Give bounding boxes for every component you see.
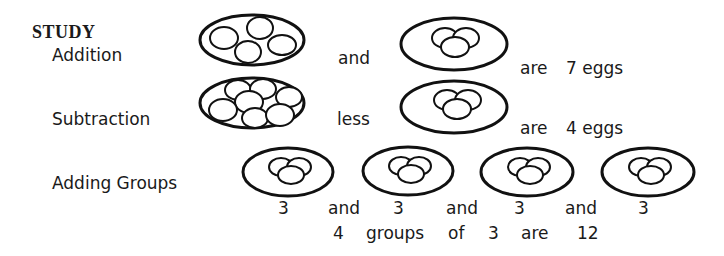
group-plate-2 xyxy=(363,147,453,195)
summary-verb: are xyxy=(521,225,549,242)
summary-groups-count: 4 xyxy=(333,225,344,242)
group-plate-3 xyxy=(481,148,573,196)
summary-groups-word: groups xyxy=(366,225,424,242)
plate-three-eggs xyxy=(401,18,507,70)
group-count-1: 3 xyxy=(278,200,289,217)
summary-group-size: 3 xyxy=(488,225,499,242)
group-connector-3: and xyxy=(565,200,597,217)
group-plate-4 xyxy=(602,148,694,196)
subtraction-label: Subtraction xyxy=(52,111,150,128)
plate-four-eggs xyxy=(200,15,304,65)
plate-seven-eggs xyxy=(200,78,304,128)
group-count-2: 3 xyxy=(393,200,404,217)
subtraction-verb: are xyxy=(520,120,548,137)
section-heading: STUDY xyxy=(32,22,96,43)
addition-connector: and xyxy=(338,50,370,67)
group-count-4: 3 xyxy=(638,200,649,217)
adding-groups-label: Adding Groups xyxy=(52,175,177,192)
summary-total: 12 xyxy=(577,225,599,242)
plate-three-eggs xyxy=(401,81,507,133)
group-connector-2: and xyxy=(446,200,478,217)
group-connector-1: and xyxy=(328,200,360,217)
summary-of-word: of xyxy=(448,225,464,242)
addition-verb: are xyxy=(520,60,548,77)
group-count-3: 3 xyxy=(514,200,525,217)
subtraction-result: 4 eggs xyxy=(566,120,623,137)
addition-result: 7 eggs xyxy=(566,60,623,77)
group-plate-1 xyxy=(243,148,333,196)
subtraction-connector: less xyxy=(337,111,370,128)
addition-label: Addition xyxy=(52,47,122,64)
